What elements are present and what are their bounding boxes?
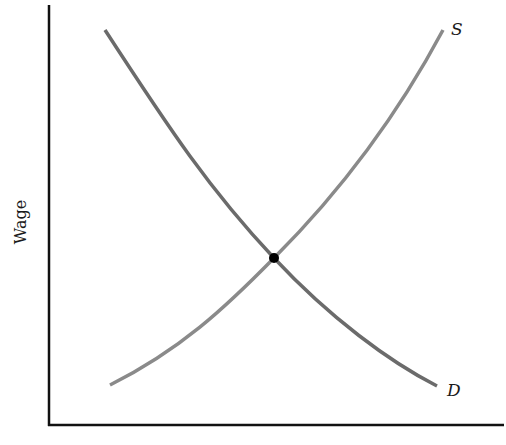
demand-curve (105, 30, 437, 386)
supply-label: S (451, 19, 463, 39)
demand-label: D (446, 380, 461, 400)
y-axis-label: Wage (11, 200, 30, 244)
labor-market-diagram: Wage S D (0, 0, 506, 445)
equilibrium-point (269, 253, 279, 263)
supply-curve (110, 30, 443, 385)
